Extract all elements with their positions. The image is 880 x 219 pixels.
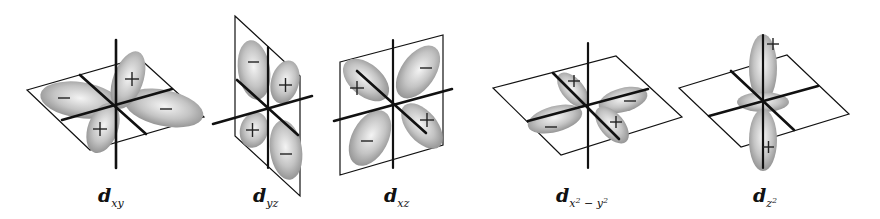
sup-2: 2 [576,196,581,205]
sub-x: x [569,197,575,210]
label-subscript: x2 − y2 [569,197,608,210]
label-dxz: dxz [384,184,409,206]
label-subscript: xy [111,197,123,210]
label-base: d [98,184,111,206]
orbital-dxz [334,35,452,175]
lobe-plus-lower-right [393,96,451,157]
sub-minus-y: − y [581,197,603,210]
orbital-diagrams [0,0,880,219]
label-subscript: z2 [766,197,777,210]
label-base: d [556,184,569,206]
orbital-dxy [27,40,207,168]
sup-2: 2 [772,196,777,205]
label-dz2: dz2 [753,184,777,206]
lobe-minus-lower-left [340,103,400,173]
d-orbitals-figure: dxy dyz dxz dx2 − y2 dz2 [0,0,880,219]
label-subscript: xz [397,197,409,210]
orbital-dyz [213,16,312,196]
label-base: d [384,184,397,206]
orbital-dx2-y2 [493,43,682,168]
label-dxy: dxy [98,184,124,206]
orbital-dz2 [679,34,849,171]
label-dyz: dyz [253,184,278,206]
sup-2: 2 [603,196,608,205]
label-subscript: yz [266,197,278,210]
lobe-minus-upper-right [387,38,449,107]
label-dx2-y2: dx2 − y2 [556,184,608,206]
label-base: d [753,184,766,206]
label-base: d [253,184,266,206]
